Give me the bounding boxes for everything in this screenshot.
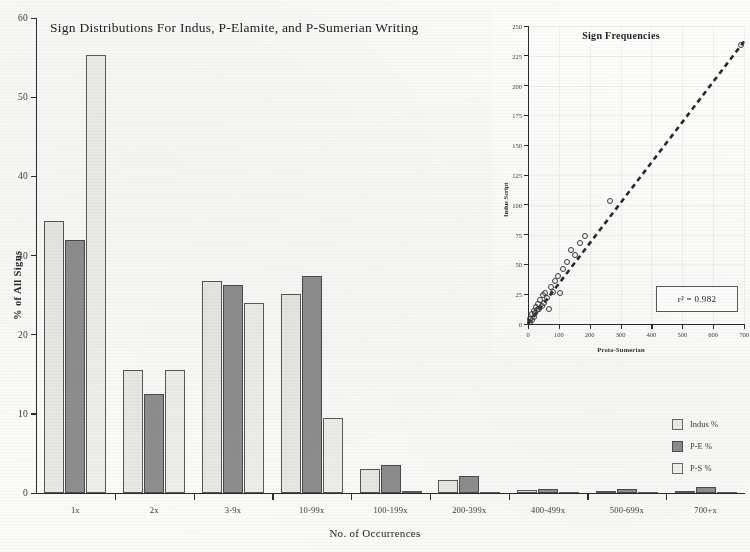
x-tick-label: 10-99x (299, 505, 324, 515)
bar (438, 480, 458, 493)
y-tick-label: 40 (18, 171, 28, 181)
scatter-point (572, 252, 578, 258)
bar (144, 394, 164, 493)
inset-gridline (528, 235, 744, 236)
inset-y-axis-title: Indus Script (502, 183, 509, 218)
inset-gridline (528, 86, 744, 87)
legend-label: Indus % (690, 419, 718, 429)
inset-x-tick-label: 400 (647, 331, 657, 338)
inset-gridline (528, 56, 744, 57)
bar (381, 465, 401, 494)
inset-y-axis-line (528, 26, 529, 324)
inset-y-tick-label: 25 (516, 291, 523, 298)
legend-label: P-S % (690, 463, 712, 473)
scatter-point (555, 273, 561, 279)
legend-swatch-icon (672, 441, 683, 452)
inset-y-tick-label: 200 (512, 82, 522, 89)
r-squared-annotation: r² = 0.982 (656, 286, 738, 312)
x-axis-line (36, 493, 745, 494)
legend-swatch-icon (672, 463, 683, 474)
bar (65, 240, 85, 493)
scatter-point (560, 266, 566, 272)
scatter-point (557, 290, 563, 296)
inset-gridline (528, 205, 744, 206)
legend-item: Indus % (672, 413, 750, 435)
inset-y-tick-label: 0 (519, 321, 522, 328)
inset-x-tick-label: 500 (677, 331, 687, 338)
inset-y-tick-label: 250 (512, 23, 522, 30)
x-tick-label: 1x (71, 505, 80, 515)
x-tick-label: 100-199x (373, 505, 407, 515)
inset-gridline (528, 26, 744, 27)
x-tick-label: 500-699x (610, 505, 644, 515)
x-tick-label: 700+x (694, 505, 717, 515)
inset-gridline (713, 26, 714, 324)
inset-gridline (559, 26, 560, 324)
inset-x-tick-label: 200 (585, 331, 595, 338)
inset-x-tick-label: 0 (526, 331, 529, 338)
scatter-point (607, 198, 613, 204)
y-tick-label: 60 (18, 13, 28, 23)
inset-y-tick-label: 75 (516, 231, 523, 238)
inset-x-tick-label: 300 (616, 331, 626, 338)
chart-figure: Sign Distributions For Indus, P-Elamite,… (0, 0, 750, 552)
y-tick-label: 10 (18, 409, 28, 419)
bar (86, 55, 106, 493)
inset-y-tick-label: 150 (512, 142, 522, 149)
bar (202, 281, 222, 493)
inset-y-tick-label: 125 (512, 172, 522, 179)
y-tick-label: 0 (23, 488, 28, 498)
inset-y-tick-label: 50 (516, 261, 523, 268)
y-axis-line (36, 18, 37, 493)
bar (165, 370, 185, 494)
scatter-point (546, 306, 552, 312)
scatter-point (564, 259, 570, 265)
bar (323, 418, 343, 493)
inset-y-tick-label: 175 (512, 112, 522, 119)
chart-legend: Indus %P-E %P-S % (672, 413, 750, 479)
bar (459, 476, 479, 493)
inset-x-axis-title: Proto-Sumerian (492, 346, 750, 353)
bar (360, 469, 380, 493)
inset-gridline (528, 175, 744, 176)
scatter-point (550, 289, 556, 295)
bar (44, 221, 64, 493)
inset-gridline (590, 26, 591, 324)
inset-scatter-chart: Sign Frequencies Indus Script 0255075100… (492, 12, 750, 357)
bar (123, 370, 143, 494)
inset-gridline (651, 26, 652, 324)
legend-label: P-E % (690, 441, 712, 451)
y-axis-title: % of All Signs (12, 251, 23, 321)
x-tick-label: 400-499x (531, 505, 565, 515)
inset-x-tick-label: 700 (739, 331, 749, 338)
x-tick-label: 200-399x (452, 505, 486, 515)
legend-item: P-S % (672, 457, 750, 479)
bar (302, 276, 322, 493)
inset-x-tick-label: 100 (554, 331, 564, 338)
inset-gridline (621, 26, 622, 324)
inset-y-tick-label: 100 (512, 201, 522, 208)
legend-swatch-icon (672, 419, 683, 430)
inset-y-tick-label: 225 (512, 52, 522, 59)
x-tick-label: 2x (150, 505, 159, 515)
inset-gridline (744, 26, 745, 324)
inset-x-tick-label: 600 (708, 331, 718, 338)
scatter-point (544, 295, 550, 301)
bar (223, 285, 243, 493)
bar (281, 294, 301, 494)
scatter-point (577, 240, 583, 246)
y-tick-label: 20 (18, 330, 28, 340)
legend-item: P-E % (672, 435, 750, 457)
scatter-point (738, 42, 744, 48)
inset-gridline (528, 115, 744, 116)
y-tick-label: 30 (18, 251, 28, 261)
inset-x-axis-line (528, 324, 744, 325)
y-tick-label: 50 (18, 92, 28, 102)
chart-title: Sign Distributions For Indus, P-Elamite,… (50, 20, 419, 36)
x-axis-title: No. of Occurrences (0, 527, 750, 539)
x-tick-label: 3-9x (225, 505, 241, 515)
inset-gridline (528, 264, 744, 265)
bar (244, 303, 264, 493)
inset-gridline (682, 26, 683, 324)
inset-x-tick-mark (744, 324, 745, 329)
